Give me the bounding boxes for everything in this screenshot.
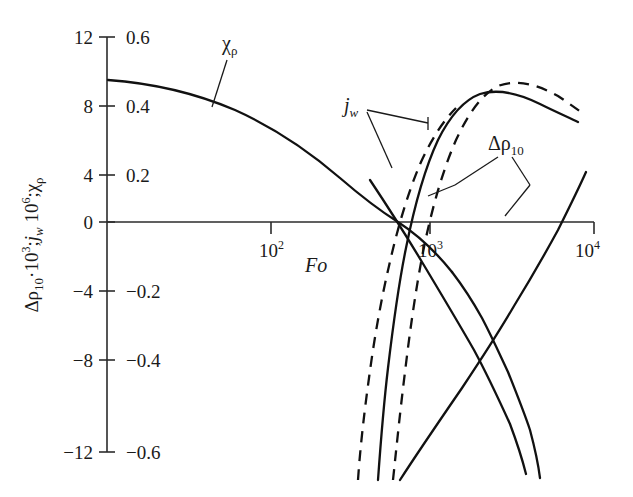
y-title-delta-rho: Δρ <box>21 291 42 313</box>
y-label-0p6: 0.6 <box>126 27 150 48</box>
x-label-1e4-base: 10 <box>575 240 594 261</box>
y-label-8: 8 <box>84 96 94 117</box>
y-title-delta-rho-sub: 10 <box>31 278 46 291</box>
y-title-times10: ·10 <box>21 253 42 278</box>
y-label-minus-0p4: −0.4 <box>126 350 161 371</box>
label-chi-rho-sub: ρ <box>231 43 238 58</box>
y-label-minus-4: −4 <box>73 281 94 302</box>
x-label-1e4-exp: 4 <box>594 238 600 252</box>
x-label-1e2-exp: 2 <box>278 238 284 252</box>
y-label-minus-0p2: −0.2 <box>126 281 160 302</box>
y-label-minus-0p6: −0.6 <box>126 442 160 463</box>
x-label-1e2-base: 10 <box>259 240 278 261</box>
y-axis-title: Δρ10·103;jw 106;χρ <box>19 177 46 312</box>
label-delta-rho-main: Δρ <box>488 132 511 155</box>
y-label-4: 4 <box>84 165 94 186</box>
y-label-12: 12 <box>74 27 93 48</box>
y-label-0p2: 0.2 <box>126 165 150 186</box>
x-label-1e3-exp: 3 <box>437 238 443 252</box>
y-label-0p4: 0.4 <box>126 96 150 117</box>
label-chi-rho-main: χ <box>221 32 231 55</box>
y-label-minus-8: −8 <box>73 350 93 371</box>
chart-background <box>0 0 633 497</box>
chart-figure: 12 8 4 0 −4 −8 −12 0.6 0.4 0.2 −0.2 −0.4… <box>0 0 633 497</box>
label-delta-rho-sub: 10 <box>511 143 524 158</box>
label-fo: Fo <box>304 254 327 276</box>
chart-svg: 12 8 4 0 −4 −8 −12 0.6 0.4 0.2 −0.2 −0.4… <box>0 0 633 497</box>
y-title-chi-sub: ρ <box>31 177 46 184</box>
y-title-ten: 10 <box>21 204 42 228</box>
y-label-0: 0 <box>84 212 94 233</box>
y-label-minus-12: −12 <box>63 442 93 463</box>
y-title-jw-sub: w <box>31 227 46 236</box>
label-jw-sub: w <box>350 105 359 120</box>
y-axis-title-text: Δρ10·103;jw 106;χρ <box>19 177 46 312</box>
